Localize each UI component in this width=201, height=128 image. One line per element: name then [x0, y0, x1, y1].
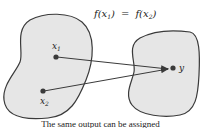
- label-y: y: [178, 63, 185, 73]
- point-y: [170, 65, 175, 70]
- point-x2: [40, 88, 45, 93]
- equation: f(x1)=f(x2): [93, 8, 156, 20]
- caption: The same output can be assigned: [0, 119, 201, 128]
- function-diagram: x1 x2 y f(x1)=f(x2): [0, 0, 201, 128]
- point-x1: [53, 54, 58, 59]
- codomain-set: [129, 31, 200, 116]
